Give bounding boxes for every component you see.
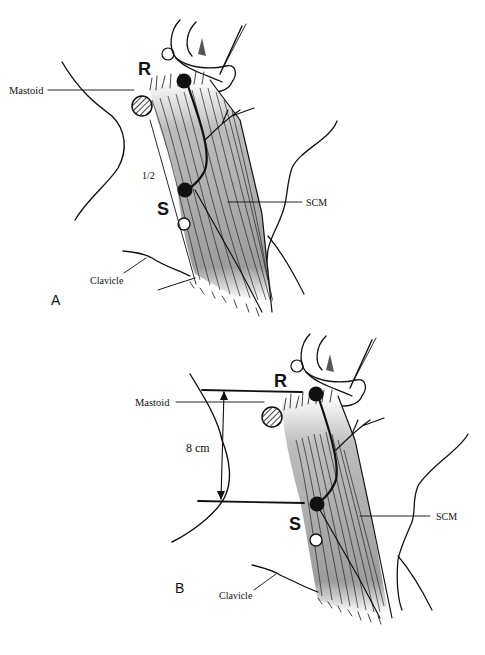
- label-mastoid: Mastoid: [135, 397, 170, 408]
- panel-b: Mastoid R 8 cm S SCM Clavicle B: [135, 334, 468, 624]
- scm-muscle: [282, 396, 388, 614]
- mastoid-marker: [262, 407, 282, 427]
- anatomical-figure: Mastoid R 1/2 S SCM Clavicle A: [0, 0, 485, 655]
- point-r-dot: [309, 387, 324, 402]
- label-scm: SCM: [436, 511, 457, 522]
- label-r: R: [138, 59, 151, 79]
- label-s: S: [289, 514, 301, 534]
- point-s-dot: [178, 183, 193, 198]
- panel-label-a: A: [51, 292, 61, 308]
- mastoid-marker: [132, 96, 152, 116]
- point-s-open: [178, 218, 190, 230]
- clavicle-outline: [252, 565, 318, 592]
- label-r: R: [274, 371, 287, 391]
- label-distance: 8 cm: [186, 441, 210, 455]
- face-outline: [62, 62, 124, 220]
- label-scm: SCM: [306, 197, 327, 208]
- neck-outline: [267, 121, 337, 300]
- label-clavicle: Clavicle: [90, 275, 124, 286]
- label-clavicle: Clavicle: [219, 590, 253, 601]
- label-s: S: [157, 199, 169, 219]
- point-s-open: [310, 534, 322, 546]
- clavicle-outline: [123, 251, 190, 276]
- point-s-dot: [310, 497, 325, 512]
- label-mastoid: Mastoid: [9, 85, 44, 96]
- neck-outline: [397, 434, 468, 610]
- panel-a: Mastoid R 1/2 S SCM Clavicle A: [9, 20, 337, 316]
- label-fraction: 1/2: [142, 170, 155, 181]
- ear: [291, 334, 376, 406]
- panel-label-b: B: [175, 580, 184, 596]
- point-r-dot: [177, 74, 192, 89]
